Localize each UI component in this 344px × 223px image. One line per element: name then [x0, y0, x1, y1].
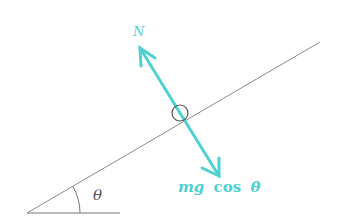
theta-text: θ	[250, 178, 260, 196]
gravity-component-label: mg cos θ	[178, 178, 260, 196]
normal-force-arrow	[140, 48, 180, 113]
gravity-component-arrow	[180, 113, 219, 176]
incline-diagram: θ N mg cos θ	[0, 0, 344, 223]
cos-text: cos	[214, 178, 242, 196]
mg-text: mg	[178, 178, 204, 196]
incline-line	[27, 42, 320, 213]
angle-arc	[73, 186, 80, 213]
angle-label: θ	[93, 186, 102, 204]
normal-force-label: N	[132, 24, 145, 39]
